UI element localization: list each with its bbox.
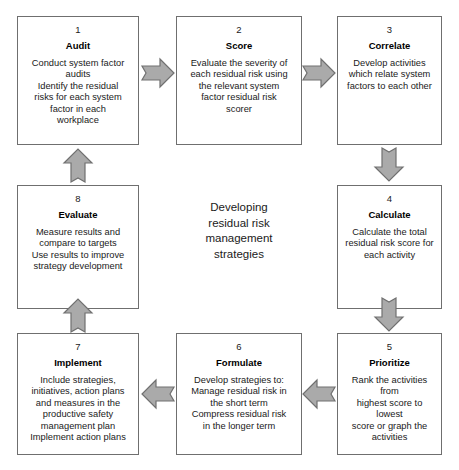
process-node-1-audit[interactable]: 1 Audit Conduct system factor audits Ide… bbox=[17, 16, 139, 145]
arrow-right-icon-2-to-3 bbox=[301, 55, 337, 91]
node-body: Include strategies, initiatives, action … bbox=[30, 375, 126, 443]
node-number: 2 bbox=[236, 23, 241, 36]
node-number: 3 bbox=[387, 23, 392, 36]
node-number: 4 bbox=[387, 192, 392, 205]
process-node-4-calculate[interactable]: 4 Calculate Calculate the total residual… bbox=[337, 185, 442, 309]
arrow-up-icon-8-to-1 bbox=[60, 146, 96, 184]
node-title: Evaluate bbox=[58, 209, 97, 221]
process-node-8-evaluate[interactable]: 8 Evaluate Measure results and compare t… bbox=[17, 185, 139, 309]
node-body: Measure results and compare to targets U… bbox=[32, 227, 124, 273]
arrow-left-icon-6-to-7 bbox=[140, 376, 176, 412]
node-number: 5 bbox=[387, 340, 392, 353]
node-body: Develop activities which relate system f… bbox=[347, 58, 432, 92]
arrow-up-icon-7-to-8 bbox=[60, 296, 96, 334]
process-node-2-score[interactable]: 2 Score Evaluate the severity of each re… bbox=[176, 16, 302, 145]
node-body: Develop strategies to: Manage residual r… bbox=[191, 375, 287, 432]
node-title: Implement bbox=[54, 357, 102, 369]
node-title: Calculate bbox=[368, 209, 410, 221]
arrow-down-icon-3-to-4 bbox=[371, 146, 407, 184]
node-title: Prioritize bbox=[369, 357, 410, 369]
arrow-left-icon-5-to-6 bbox=[301, 376, 337, 412]
node-body: Calculate the total residual risk score … bbox=[345, 227, 433, 261]
process-node-5-prioritize[interactable]: 5 Prioritize Rank the activities from hi… bbox=[337, 333, 442, 455]
diagram-centre-caption: Developing residual risk management stra… bbox=[166, 200, 312, 262]
process-node-3-correlate[interactable]: 3 Correlate Develop activities which rel… bbox=[337, 16, 442, 145]
node-number: 7 bbox=[75, 340, 80, 353]
node-body: Conduct system factor audits Identify th… bbox=[32, 58, 125, 126]
node-body: Evaluate the severity of each residual r… bbox=[190, 58, 287, 115]
node-number: 8 bbox=[75, 192, 80, 205]
process-node-7-implement[interactable]: 7 Implement Include strategies, initiati… bbox=[17, 333, 139, 455]
residual-risk-cycle-diagram: 1 Audit Conduct system factor audits Ide… bbox=[0, 0, 459, 470]
arrow-right-icon-1-to-2 bbox=[140, 55, 176, 91]
node-title: Formulate bbox=[216, 357, 262, 369]
node-title: Score bbox=[226, 40, 252, 52]
node-title: Audit bbox=[66, 40, 90, 52]
node-title: Correlate bbox=[369, 40, 411, 52]
process-node-6-formulate[interactable]: 6 Formulate Develop strategies to: Manag… bbox=[176, 333, 302, 455]
node-number: 6 bbox=[236, 340, 241, 353]
node-number: 1 bbox=[75, 23, 80, 36]
node-body: Rank the activities from highest score t… bbox=[343, 375, 436, 443]
arrow-down-icon-4-to-5 bbox=[371, 296, 407, 334]
